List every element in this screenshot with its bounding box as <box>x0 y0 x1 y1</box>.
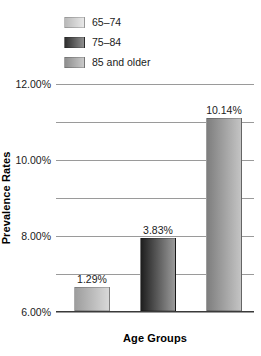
y-tick-label: 12.00% <box>15 78 51 90</box>
legend-swatch-75-84 <box>64 37 85 48</box>
y-tick-label: 10.00% <box>15 154 51 166</box>
plot-area: 0.00%2.00%4.00%6.00%8.00%10.00%12.00% 1.… <box>56 84 254 312</box>
bar-chart: 65–74 75–84 85 and older Prevalence Rate… <box>0 0 261 356</box>
legend-item-75-84: 75–84 <box>64 32 224 52</box>
y-tick-label: 6.00% <box>21 306 51 318</box>
bar-85-older: 10.14% <box>206 118 242 311</box>
x-axis-title: Age Groups <box>56 332 254 344</box>
legend-label-65-74: 65–74 <box>92 17 121 28</box>
legend-swatch-65-74 <box>64 17 85 28</box>
legend-label-85-older: 85 and older <box>92 57 150 68</box>
bar-value-label: 1.29% <box>77 273 107 285</box>
legend-label-75-84: 75–84 <box>92 37 121 48</box>
gridline-12.00: 12.00% <box>56 84 254 85</box>
bar-65-74: 1.29% <box>74 287 110 312</box>
legend-item-65-74: 65–74 <box>64 12 224 32</box>
bar-value-label: 3.83% <box>143 224 173 236</box>
legend-item-85-older: 85 and older <box>64 52 224 72</box>
bar-75-84: 3.83% <box>140 238 176 311</box>
chart-legend: 65–74 75–84 85 and older <box>64 12 224 72</box>
legend-swatch-85-older <box>64 57 85 68</box>
x-axis-line <box>56 311 254 312</box>
y-tick-label: 8.00% <box>21 230 51 242</box>
bar-value-label: 10.14% <box>206 104 242 116</box>
y-axis-title: Prevalence Rates <box>0 84 16 312</box>
